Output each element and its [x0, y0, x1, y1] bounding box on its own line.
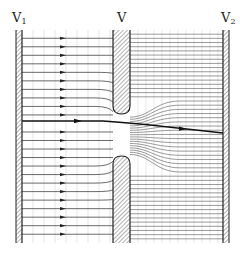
middle-wall-upper	[113, 30, 130, 114]
right-wall	[223, 30, 229, 243]
middle-wall	[113, 30, 130, 243]
streamlines-left	[22, 37, 113, 236]
label-v1: V1	[12, 11, 26, 26]
streamlines-right	[130, 34, 223, 239]
label-v: V	[117, 11, 126, 24]
middle-wall-lower	[113, 156, 130, 243]
left-wall	[16, 30, 22, 243]
grid-left	[33, 30, 110, 243]
label-v2-main: V	[221, 10, 230, 25]
flow-diagram	[0, 0, 240, 255]
label-v1-sub: 1	[21, 17, 26, 26]
label-v-main: V	[117, 10, 126, 25]
label-v2-sub: 2	[230, 17, 235, 26]
label-v2: V2	[221, 11, 235, 26]
grid-right	[138, 30, 218, 243]
label-v1-main: V	[12, 10, 21, 25]
